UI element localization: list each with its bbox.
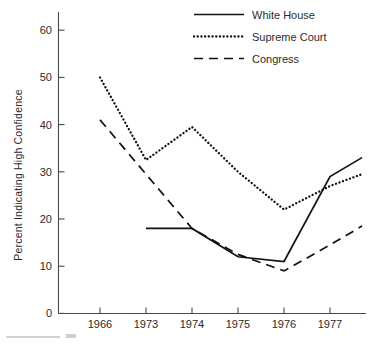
legend-label-white-house: White House	[252, 9, 315, 21]
scan-artifact	[6, 334, 76, 338]
chart-legend: White House Supreme Court Congress	[194, 9, 327, 65]
y-tick-label: 10	[40, 260, 52, 272]
legend-label-congress: Congress	[252, 53, 300, 65]
legend-label-supreme-court: Supreme Court	[252, 31, 327, 43]
y-tick-label: 50	[40, 71, 52, 83]
x-tick-label: 1966	[88, 318, 112, 330]
y-axis-tick-labels: 60 50 40 30 20 10 0	[40, 24, 52, 319]
y-tick-label: 40	[40, 119, 52, 131]
x-axis-ticks	[100, 308, 330, 314]
x-tick-label: 1975	[226, 318, 250, 330]
x-tick-label: 1976	[272, 318, 296, 330]
chart-plot-area: 60 50 40 30 20 10 0 Percent Indicating H…	[0, 0, 370, 347]
y-tick-label: 20	[40, 213, 52, 225]
y-tick-label: 30	[40, 166, 52, 178]
series-line-congress	[100, 120, 362, 271]
x-axis-tick-labels: 1966 1973 1974 1975 1976 1977	[88, 318, 342, 330]
series-group	[100, 77, 362, 271]
x-tick-label: 1977	[318, 318, 342, 330]
y-tick-label: 0	[46, 307, 52, 319]
y-axis-title: Percent Indicating High Confidence	[12, 89, 24, 260]
y-tick-label: 60	[40, 24, 52, 36]
line-chart-figure: 60 50 40 30 20 10 0 Percent Indicating H…	[0, 0, 370, 347]
x-tick-label: 1973	[134, 318, 158, 330]
series-line-white-house	[146, 158, 362, 262]
y-axis-ticks	[59, 30, 65, 313]
x-tick-label: 1974	[180, 318, 204, 330]
series-line-supreme-court	[100, 77, 362, 209]
